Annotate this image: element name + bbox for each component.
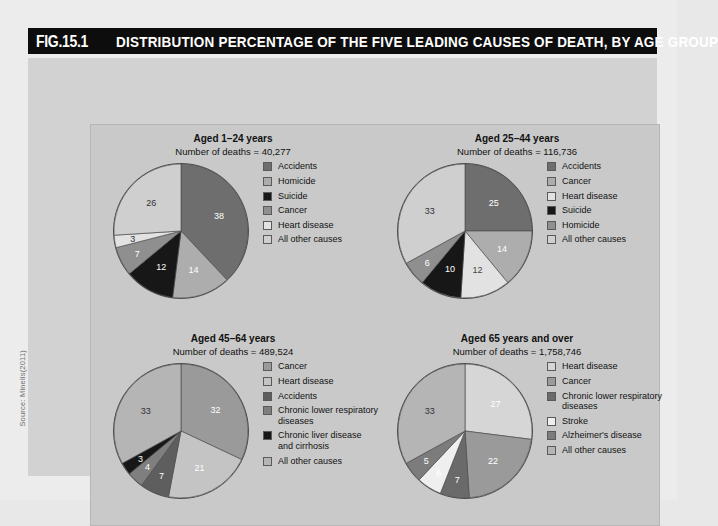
legend-item[interactable]: Heart disease [263, 220, 379, 231]
legend-swatch-icon [547, 392, 556, 401]
legend-label: All other causes [278, 456, 342, 467]
legend-label: Homicide [562, 220, 600, 231]
legend-swatch-icon [263, 206, 272, 215]
legend-item[interactable]: Cancer [263, 361, 379, 372]
chart-legend: CancerHeart diseaseAccidentsChronic lowe… [263, 361, 379, 470]
legend-swatch-icon [547, 206, 556, 215]
legend-label: All other causes [278, 234, 342, 245]
chart-legend: AccidentsCancerHeart diseaseSuicideHomic… [547, 161, 663, 249]
chart-subtitle: Number of deaths = 116,736 [375, 146, 659, 158]
chart-body: 272276533Heart diseaseCancerChronic lowe… [375, 357, 659, 509]
legend-label: Heart disease [278, 220, 334, 231]
legend-item[interactable]: Accidents [547, 161, 663, 172]
legend-item[interactable]: Accidents [263, 391, 379, 402]
legend-swatch-icon [547, 362, 556, 371]
pie-panel-aged-25-44: Aged 25–44 yearsNumber of deaths = 116,7… [375, 125, 659, 325]
legend-label: Accidents [278, 391, 317, 402]
legend-swatch-icon [547, 446, 556, 455]
legend-item[interactable]: Chronic liver disease and cirrhosis [263, 430, 379, 451]
legend-swatch-icon [263, 377, 272, 386]
legend-swatch-icon [263, 431, 272, 440]
legend-item[interactable]: Heart disease [547, 361, 663, 372]
pie-panel-aged-1-24: Aged 1–24 yearsNumber of deaths = 40,277… [91, 125, 375, 325]
legend-swatch-icon [263, 406, 272, 415]
chart-header: Aged 25–44 yearsNumber of deaths = 116,7… [375, 125, 659, 157]
legend-item[interactable]: Cancer [263, 205, 379, 216]
legend-label: Stroke [562, 416, 588, 427]
chart-body: 3814127326AccidentsHomicideSuicideCancer… [91, 157, 375, 309]
legend-item[interactable]: Chronic lower respiratory diseases [547, 391, 663, 412]
chart-header: Aged 1–24 yearsNumber of deaths = 40,277 [91, 125, 375, 157]
legend-label: Homicide [278, 176, 316, 187]
legend-label: Cancer [562, 376, 591, 387]
legend-item[interactable]: Suicide [547, 205, 663, 216]
legend-label: Accidents [562, 161, 601, 172]
source-note: Source: Minelis(2011) [18, 350, 32, 427]
legend-swatch-icon [263, 192, 272, 201]
legend-item[interactable]: Heart disease [263, 376, 379, 387]
pie-slice [465, 364, 532, 439]
legend-label: Alzheimer's disease [562, 430, 642, 441]
chart-header: Aged 65 years and overNumber of deaths =… [375, 325, 659, 357]
pie-slice [114, 164, 181, 235]
chart-legend: AccidentsHomicideSuicideCancerHeart dise… [263, 161, 379, 249]
pie-circle [397, 363, 533, 499]
legend-swatch-icon [263, 162, 272, 171]
pie-chart: 3814127326 [113, 163, 249, 299]
pie-panel-aged-65-plus: Aged 65 years and overNumber of deaths =… [375, 325, 659, 525]
pie-circle [397, 163, 533, 299]
figure-title: DISTRIBUTION PERCENTAGE OF THE FIVE LEAD… [98, 32, 718, 49]
chart-title: Aged 1–24 years [91, 133, 375, 146]
legend-label: Chronic lower respiratory diseases [278, 405, 379, 426]
chart-title: Aged 65 years and over [375, 333, 659, 346]
chart-body: 322174333CancerHeart diseaseAccidentsChr… [91, 357, 375, 509]
legend-item[interactable]: Cancer [547, 176, 663, 187]
pie-chart: 322174333 [113, 363, 249, 499]
legend-swatch-icon [263, 392, 272, 401]
legend-swatch-icon [547, 377, 556, 386]
legend-swatch-icon [263, 362, 272, 371]
legend-label: Chronic liver disease and cirrhosis [278, 430, 379, 451]
legend-swatch-icon [263, 235, 272, 244]
legend-swatch-icon [547, 162, 556, 171]
legend-item[interactable]: All other causes [263, 234, 379, 245]
chart-title: Aged 25–44 years [375, 133, 659, 146]
legend-label: All other causes [562, 445, 626, 456]
legend-swatch-icon [263, 457, 272, 466]
legend-swatch-icon [547, 192, 556, 201]
legend-label: Heart disease [562, 191, 618, 202]
legend-label: Heart disease [562, 361, 618, 372]
legend-item[interactable]: Heart disease [547, 191, 663, 202]
pie-slice [465, 431, 531, 498]
legend-label: Cancer [278, 361, 307, 372]
legend-item[interactable]: Alzheimer's disease [547, 430, 663, 441]
legend-item[interactable]: Cancer [547, 376, 663, 387]
chart-body: 25141210633AccidentsCancerHeart diseaseS… [375, 157, 659, 309]
legend-label: Heart disease [278, 376, 334, 387]
legend-item[interactable]: All other causes [547, 234, 663, 245]
pie-chart: 25141210633 [397, 163, 533, 299]
legend-label: Accidents [278, 161, 317, 172]
legend-item[interactable]: All other causes [547, 445, 663, 456]
legend-item[interactable]: Stroke [547, 416, 663, 427]
legend-item[interactable]: Chronic lower respiratory diseases [263, 405, 379, 426]
legend-item[interactable]: Accidents [263, 161, 379, 172]
legend-item[interactable]: Suicide [263, 191, 379, 202]
figure-number: FIG.15.1 [28, 32, 98, 50]
legend-item[interactable]: Homicide [263, 176, 379, 187]
pie-circle [113, 363, 249, 499]
pie-circle [113, 163, 249, 299]
legend-label: Suicide [278, 191, 308, 202]
charts-area: Aged 1–24 yearsNumber of deaths = 40,277… [90, 124, 660, 526]
chart-legend: Heart diseaseCancerChronic lower respira… [547, 361, 663, 459]
legend-swatch-icon [547, 417, 556, 426]
legend-item[interactable]: Homicide [547, 220, 663, 231]
legend-swatch-icon [263, 177, 272, 186]
pie-chart: 272276533 [397, 363, 533, 499]
legend-label: Chronic lower respiratory diseases [562, 391, 663, 412]
legend-item[interactable]: All other causes [263, 456, 379, 467]
pie-slice [465, 164, 532, 231]
chart-title: Aged 45–64 years [91, 333, 375, 346]
legend-swatch-icon [263, 221, 272, 230]
